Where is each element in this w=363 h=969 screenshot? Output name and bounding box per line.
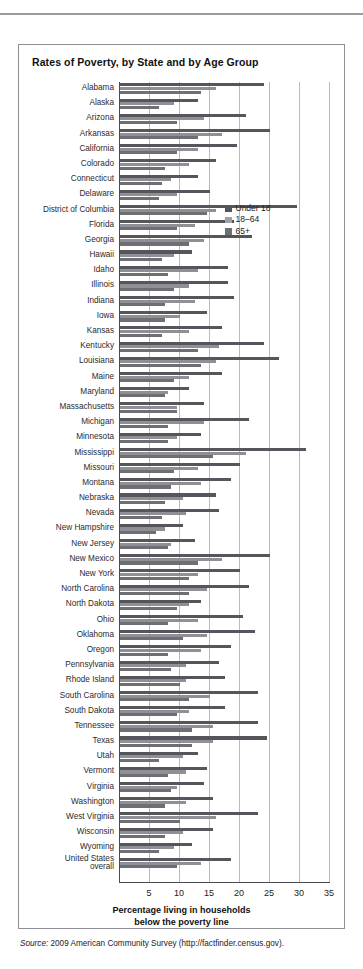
bar-65- xyxy=(120,273,168,276)
bar-65- xyxy=(120,835,165,838)
bar-65- xyxy=(120,516,162,519)
category-label: California xyxy=(79,144,114,154)
x-tick-label-10: 10 xyxy=(174,888,184,898)
category-label: Nevada xyxy=(86,508,114,518)
bar-65- xyxy=(120,485,171,488)
category-label: North Carolina xyxy=(61,584,114,594)
bar-65- xyxy=(120,440,168,443)
bar-row: Ohio xyxy=(119,614,329,629)
bar-row: Minnesota xyxy=(119,431,329,446)
bar-row: Oklahoma xyxy=(119,629,329,644)
category-label: South Dakota xyxy=(64,706,114,716)
bar-row: Kentucky xyxy=(119,340,329,355)
legend-label: 65+ xyxy=(236,226,250,237)
bar-row: South Dakota xyxy=(119,705,329,720)
category-label: Michigan xyxy=(81,417,114,427)
bar-65- xyxy=(120,501,165,504)
category-label: Washington xyxy=(71,797,114,807)
bar-row: Pennsylvania xyxy=(119,659,329,674)
bar-row: New Jersey xyxy=(119,538,329,553)
bar-row: Nevada xyxy=(119,507,329,522)
bar-65- xyxy=(120,698,189,701)
bar-65- xyxy=(120,242,189,245)
bar-row: Massachusetts xyxy=(119,401,329,416)
bar-65- xyxy=(120,668,171,671)
x-tick-label-5: 5 xyxy=(146,888,151,898)
x-axis-caption-line2: below the poverty line xyxy=(19,917,344,929)
bar-65- xyxy=(120,303,165,306)
bar-row: South Carolina xyxy=(119,690,329,705)
bar-65- xyxy=(120,167,165,170)
category-label: Tennessee xyxy=(74,721,114,731)
bar-65- xyxy=(120,774,168,777)
bar-row: California xyxy=(119,143,329,158)
category-label: Oklahoma xyxy=(77,630,114,640)
legend-label: 18–64 xyxy=(236,214,260,225)
category-label: Delaware xyxy=(79,189,114,199)
category-label: New Hampshire xyxy=(56,523,114,533)
bar-65- xyxy=(120,197,159,200)
x-tick-label-30: 30 xyxy=(294,888,304,898)
category-label: Minnesota xyxy=(76,432,114,442)
chart-legend: Under 1818–6465+ xyxy=(225,203,270,237)
bar-row: North Dakota xyxy=(119,598,329,613)
bar-65- xyxy=(120,759,159,762)
bar-row: New Mexico xyxy=(119,553,329,568)
bar-row: Maine xyxy=(119,371,329,386)
category-label: South Carolina xyxy=(60,691,114,701)
x-tick-label-20: 20 xyxy=(234,888,244,898)
bar-row: Kansas xyxy=(119,325,329,340)
bar-row: Arkansas xyxy=(119,128,329,143)
legend-swatch-icon xyxy=(225,228,232,235)
bar-row: Iowa xyxy=(119,310,329,325)
bar-65- xyxy=(120,683,180,686)
bar-rows: AlabamaAlaskaArizonaArkansasCaliforniaCo… xyxy=(119,82,329,872)
chart-plot-area: AlabamaAlaskaArizonaArkansasCaliforniaCo… xyxy=(119,82,329,882)
x-axis-caption-line1: Percentage living in households xyxy=(19,905,344,917)
bar-row: West Virginia xyxy=(119,811,329,826)
x-tick-label-35: 35 xyxy=(324,888,334,898)
x-axis-caption: Percentage living in households below th… xyxy=(19,905,344,928)
category-label: Massachusetts xyxy=(59,402,114,412)
bar-row: Idaho xyxy=(119,264,329,279)
bar-row: Montana xyxy=(119,477,329,492)
category-label: District of Columbia xyxy=(43,205,114,215)
category-label: Colorado xyxy=(81,159,114,169)
category-label: Wyoming xyxy=(80,842,114,852)
bar-65- xyxy=(120,334,162,337)
category-label: Nebraska xyxy=(79,493,114,503)
category-label: Oregon xyxy=(87,645,114,655)
bar-65- xyxy=(120,850,159,853)
bar-65- xyxy=(120,182,162,185)
category-label: Montana xyxy=(82,478,114,488)
category-label: United Statesoverall xyxy=(65,855,114,872)
legend-item: 18–64 xyxy=(225,214,270,225)
bar-65- xyxy=(120,364,201,367)
x-tick-label-15: 15 xyxy=(204,888,214,898)
category-label: New Mexico xyxy=(69,554,114,564)
bar-65- xyxy=(120,744,192,747)
bar-65- xyxy=(120,212,207,215)
category-label: Kansas xyxy=(87,326,114,336)
bar-65- xyxy=(120,258,162,261)
category-label: Iowa xyxy=(97,311,114,321)
bar-65- xyxy=(120,653,168,656)
bar-row: Georgia xyxy=(119,234,329,249)
bar-row: Wisconsin xyxy=(119,826,329,841)
bar-65- xyxy=(120,410,177,413)
bar-65- xyxy=(120,136,198,139)
category-label: Utah xyxy=(97,751,114,761)
figure-container: Rates of Poverty, by State and by Age Gr… xyxy=(18,44,345,929)
bar-row: District of Columbia xyxy=(119,204,329,219)
bar-row: Indiana xyxy=(119,295,329,310)
bar-65- xyxy=(120,592,189,595)
bar-row: Louisiana xyxy=(119,355,329,370)
bar-65- xyxy=(120,379,174,382)
bar-row: Virginia xyxy=(119,781,329,796)
bar-65- xyxy=(120,531,156,534)
bar-row: Mississippi xyxy=(119,447,329,462)
bar-65- xyxy=(120,637,183,640)
bar-row: Nebraska xyxy=(119,492,329,507)
bar-65- xyxy=(120,607,177,610)
category-label: Kentucky xyxy=(80,341,114,351)
